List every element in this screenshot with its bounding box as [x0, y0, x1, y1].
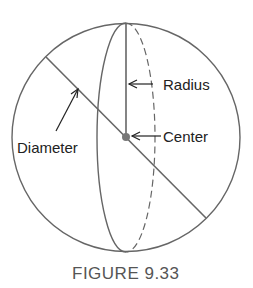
radius-label: Radius [163, 77, 210, 92]
figure-caption: FIGURE 9.33 [72, 265, 180, 282]
front-meridian [97, 23, 126, 252]
diameter-arrow-icon [56, 89, 78, 131]
center-arrow-icon [132, 132, 161, 140]
diameter-label: Diameter [17, 140, 78, 155]
center-dot [122, 133, 130, 141]
center-label: Center [163, 129, 208, 144]
radius-arrow-icon [129, 80, 153, 88]
back-meridian-dashed [126, 23, 155, 252]
